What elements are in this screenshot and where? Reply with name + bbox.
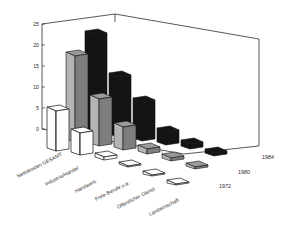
bar-1972-oeffentlicher-dienst[interactable]: [143, 169, 165, 176]
y-tick-15: 15: [33, 63, 45, 69]
year-label-1984: 1984: [262, 154, 274, 160]
bar-1980-freie-berufe[interactable]: [138, 143, 160, 154]
year-label-1980: 1980: [238, 169, 250, 175]
y-tick-0: 0: [36, 126, 45, 132]
y-tick-10: 10: [33, 84, 45, 90]
category-axis-labels: Nettokosten GESAMT Industrie/Handel Hand…: [16, 151, 181, 217]
y-tick-label: 5: [36, 105, 39, 111]
y-axis: 25 20 15 10 5 0: [33, 21, 45, 132]
bar-1984-oeffentlicher-dienst[interactable]: [181, 138, 203, 149]
bar-1980-landwirtschaft[interactable]: [186, 161, 208, 169]
y-tick-label: 20: [33, 42, 39, 48]
bar-1972-nettokosten-gesamt[interactable]: [47, 105, 69, 151]
chart-container: 25 20 15 10 5 0: [0, 0, 288, 235]
y-tick-25: 25: [33, 21, 45, 27]
bar-1972-landwirtschaft[interactable]: [167, 178, 189, 185]
bar-1980-handwerk[interactable]: [114, 121, 136, 150]
depth-axis-labels: 1984 1980 1972: [219, 154, 274, 189]
y-tick-label: 25: [33, 21, 39, 27]
category-label-handwerk: Handwerk: [74, 178, 98, 194]
category-label-industrie-handel: Industrie/Handel: [44, 165, 80, 187]
bar-1972-handwerk[interactable]: [95, 151, 117, 160]
y-tick-5: 5: [36, 105, 45, 111]
bar-1972-industrie-handel[interactable]: [71, 127, 93, 155]
category-label-landwirtschaft: Landwirtschaft: [148, 196, 181, 217]
y-tick-label: 0: [36, 126, 39, 132]
category-label-oeffentlicher-dienst: Öffentlicher Dienst: [116, 185, 156, 210]
year-label-1972: 1972: [219, 183, 231, 189]
y-tick-label: 15: [33, 63, 39, 69]
category-label-freie-berufe: Freie Berufe u.a.: [94, 179, 131, 202]
bar-1984-freie-berufe[interactable]: [157, 126, 179, 145]
bar-chart-3d: 25 20 15 10 5 0: [0, 0, 288, 235]
y-tick-20: 20: [33, 42, 45, 48]
bar-1972-freie-berufe[interactable]: [119, 160, 141, 167]
bar-1984-landwirtschaft[interactable]: [205, 147, 227, 156]
y-tick-label: 10: [33, 84, 39, 90]
